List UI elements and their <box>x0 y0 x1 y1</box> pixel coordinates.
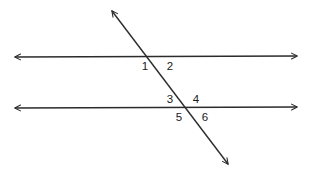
angle-label-2: 2 <box>167 60 173 72</box>
transversal-line <box>112 11 228 164</box>
angle-label-5: 5 <box>176 111 182 123</box>
angle-label-6: 6 <box>202 111 208 123</box>
geometry-figure: 1 2 3 4 5 6 <box>0 0 312 175</box>
upper-parallel-line <box>15 56 297 57</box>
angle-label-4: 4 <box>193 93 200 105</box>
angle-label-1: 1 <box>142 60 148 72</box>
lower-parallel-line <box>15 107 297 108</box>
geometry-canvas: 1 2 3 4 5 6 <box>0 0 312 175</box>
angle-label-3: 3 <box>167 93 173 105</box>
